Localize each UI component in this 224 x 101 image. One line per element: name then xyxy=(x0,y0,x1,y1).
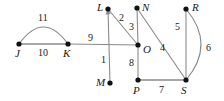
graph-vertex-l xyxy=(105,6,110,11)
edge-weight-label-op: 8 xyxy=(129,58,134,68)
graph-vertex-j xyxy=(16,41,21,46)
vertex-label-l: L xyxy=(97,2,103,13)
graph-vertex-s xyxy=(183,77,188,82)
edge-weight-label-ps: 7 xyxy=(159,85,164,95)
graph-vertex-o xyxy=(135,42,140,47)
graph-vertex-n xyxy=(134,5,139,10)
graph-figure: JKLMNOPRS 1110921348756 xyxy=(0,0,224,101)
vertex-label-n: N xyxy=(142,2,149,13)
vertex-label-p: P xyxy=(133,85,140,96)
edge-weight-label-jk-arc: 11 xyxy=(38,13,48,23)
edge-weight-label-lm: 1 xyxy=(101,55,106,65)
edge-weight-label-lo: 2 xyxy=(119,13,124,23)
edge-weight-label-rs-line: 5 xyxy=(175,22,180,32)
edge-weight-label-no: 3 xyxy=(129,22,134,32)
edge-weight-label-jk-line: 10 xyxy=(38,48,48,58)
edge-weight-label-rs-arc: 6 xyxy=(206,43,211,53)
edge-weight-label-ko: 9 xyxy=(88,33,93,43)
graph-edge-rs-arc xyxy=(186,9,201,80)
graph-vertex-p xyxy=(135,77,140,82)
graph-edge-ko xyxy=(68,44,138,45)
vertex-label-r: R xyxy=(192,2,199,13)
graph-edge-lm xyxy=(108,9,110,83)
vertex-label-m: M xyxy=(96,77,105,88)
vertex-label-o: O xyxy=(143,44,151,55)
graph-vertex-r xyxy=(183,6,188,11)
graph-edge-no xyxy=(137,8,138,45)
vertex-label-k: K xyxy=(63,48,70,59)
graph-canvas xyxy=(0,0,224,101)
vertex-label-s: S xyxy=(181,85,187,96)
edge-weight-label-ns: 4 xyxy=(160,43,165,53)
graph-vertex-k xyxy=(65,41,70,46)
vertex-label-j: J xyxy=(15,48,20,59)
graph-vertex-m xyxy=(107,80,112,85)
graph-edge-jk-arc xyxy=(19,27,68,44)
